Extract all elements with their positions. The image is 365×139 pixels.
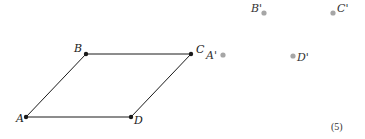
vertex-d-dot bbox=[129, 115, 133, 119]
point-d-prime-dot bbox=[290, 53, 295, 58]
parallelogram-ABCD bbox=[26, 54, 191, 117]
point-c-prime-dot bbox=[330, 10, 335, 15]
vertex-b-dot bbox=[84, 52, 88, 56]
vertex-a-label: A bbox=[15, 112, 24, 125]
vertex-c-dot bbox=[189, 52, 193, 56]
vertex-c-label: C bbox=[196, 43, 205, 56]
point-d-prime-label: D' bbox=[296, 51, 309, 64]
point-b-prime-label: B' bbox=[250, 2, 262, 15]
vertex-a-dot bbox=[24, 115, 28, 119]
point-b-prime-dot bbox=[261, 10, 266, 15]
point-c-prime-label: C' bbox=[337, 2, 348, 15]
figure-number: (5) bbox=[331, 121, 343, 133]
vertex-d-label: D bbox=[133, 114, 143, 127]
point-a-prime-label: A' bbox=[205, 49, 217, 62]
parallelogram-vertices: ABCD bbox=[15, 42, 205, 127]
point-a-prime-dot bbox=[220, 52, 225, 57]
vertex-b-label: B bbox=[73, 42, 82, 55]
image-points: A'B'C'D' bbox=[205, 2, 348, 64]
parallelogram-diagram: ABCD A'B'C'D' (5) bbox=[0, 0, 365, 139]
parallelogram-outline bbox=[26, 54, 191, 117]
